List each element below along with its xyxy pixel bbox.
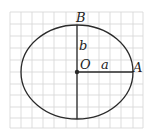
ellipse-diagram: B b O a A xyxy=(0,0,150,134)
center-point xyxy=(75,70,79,74)
label-A: A xyxy=(132,60,142,75)
label-O: O xyxy=(80,57,91,72)
label-b: b xyxy=(79,38,87,53)
label-B: B xyxy=(75,10,86,25)
label-a: a xyxy=(101,57,109,72)
